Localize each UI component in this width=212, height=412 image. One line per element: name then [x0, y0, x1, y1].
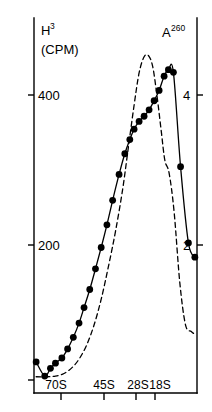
data-point — [146, 106, 153, 113]
y-right-axis-title-main: A — [162, 25, 171, 40]
data-point — [98, 244, 105, 251]
data-point — [81, 304, 88, 311]
data-point — [109, 197, 116, 204]
data-point — [151, 97, 158, 104]
data-point — [33, 359, 40, 366]
h3-solid-curve — [36, 64, 195, 376]
data-point — [58, 355, 65, 362]
chart-figure: H 3 (CPM) A 260 400 200 4 2 70S 45S 28S … — [0, 0, 212, 412]
data-point — [136, 118, 143, 125]
y-tick-label-200: 200 — [38, 238, 60, 253]
data-point — [191, 254, 198, 261]
y-tick-label-400: 400 — [38, 88, 60, 103]
data-point — [121, 150, 128, 157]
a260-dashed-curve — [36, 54, 195, 376]
data-point — [86, 286, 93, 293]
x-ticks — [61, 393, 155, 400]
y-left-axis-title-main: H — [41, 23, 50, 38]
y-left-axis-title-superscript: 3 — [50, 21, 55, 31]
y-left-axis-units: (CPM) — [41, 42, 79, 57]
data-point — [64, 346, 71, 353]
data-point — [161, 73, 168, 80]
x-tick-label-28s: 28S — [127, 378, 148, 392]
data-point — [104, 221, 111, 228]
x-tick-label-45s: 45S — [93, 378, 114, 392]
data-point — [131, 126, 138, 133]
y-right-axis-title: A 260 — [162, 23, 185, 40]
x-tick-label-70s: 70S — [45, 378, 66, 392]
data-point — [126, 136, 133, 143]
data-point — [70, 334, 77, 341]
data-point — [92, 265, 99, 272]
h3-data-markers — [33, 66, 199, 379]
y2-tick-label-4: 4 — [183, 88, 190, 103]
data-point — [141, 113, 148, 120]
y-right-axis-title-superscript: 260 — [171, 23, 185, 33]
data-point — [170, 69, 177, 76]
data-point — [76, 320, 83, 327]
y-left-tick-labels: 400 200 — [38, 88, 60, 253]
data-point — [156, 87, 163, 94]
y-left-ticks — [28, 95, 34, 380]
data-point — [177, 163, 184, 170]
data-point — [52, 360, 59, 367]
data-point — [185, 240, 192, 247]
data-point — [41, 373, 48, 380]
x-tick-labels: 70S 45S 28S 18S — [45, 378, 170, 392]
data-point — [47, 365, 54, 372]
sedimentation-profile-chart: H 3 (CPM) A 260 400 200 4 2 70S 45S 28S … — [0, 0, 212, 412]
y-left-axis-title: H 3 (CPM) — [41, 21, 79, 57]
data-point — [116, 171, 123, 178]
x-tick-label-18s: 18S — [149, 378, 170, 392]
y-right-ticks — [197, 95, 203, 245]
